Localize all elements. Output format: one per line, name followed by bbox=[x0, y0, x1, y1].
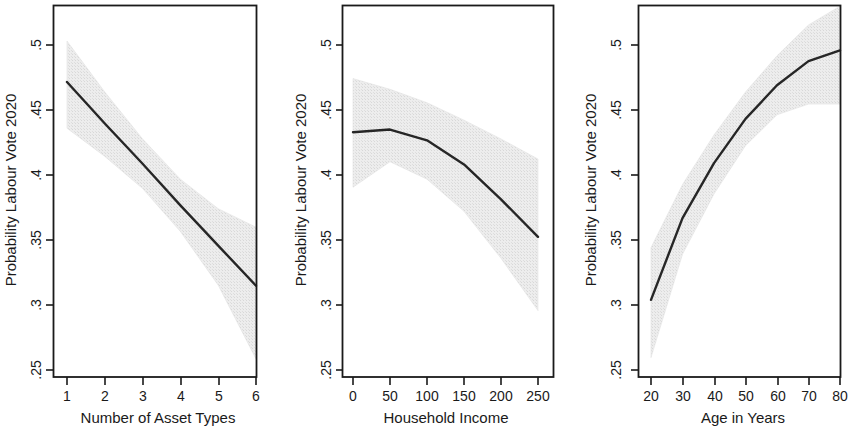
y-tick-label: .4 bbox=[28, 169, 44, 181]
x-tick-label: 200 bbox=[489, 388, 513, 404]
y-tick-label: .35 bbox=[28, 230, 44, 250]
y-axis-title: Probability Labour Vote 2020 bbox=[2, 94, 19, 287]
panel-asset-types-plot: Probability Labour Vote 2020 .5 .45 .4 .… bbox=[0, 0, 290, 432]
y-tick-label: .5 bbox=[318, 39, 334, 51]
x-axis-title: Number of Asset Types bbox=[81, 409, 236, 426]
x-tick-label: 30 bbox=[675, 388, 691, 404]
y-axis-title: Probability Labour Vote 2020 bbox=[292, 94, 309, 287]
x-tick-labels: 20 30 40 50 60 70 80 bbox=[643, 388, 848, 404]
y-tick-marks bbox=[46, 45, 53, 370]
y-tick-label: .35 bbox=[318, 230, 334, 250]
panel-household-income: Probability Labour Vote 2020 .5 .45 .4 .… bbox=[290, 0, 580, 432]
y-axis-title: Probability Labour Vote 2020 bbox=[582, 94, 599, 287]
x-tick-marks bbox=[651, 377, 840, 385]
y-tick-label: .45 bbox=[318, 100, 334, 120]
x-axis-title: Age in Years bbox=[701, 409, 785, 426]
y-tick-label: .3 bbox=[318, 299, 334, 311]
x-tick-label: 100 bbox=[415, 388, 439, 404]
confidence-band bbox=[353, 79, 538, 311]
panel-asset-types: Probability Labour Vote 2020 .5 .45 .4 .… bbox=[0, 0, 290, 432]
y-tick-label: .35 bbox=[608, 230, 624, 250]
y-tick-label: .4 bbox=[318, 169, 334, 181]
x-tick-label: 0 bbox=[349, 388, 357, 404]
x-tick-label: 20 bbox=[643, 388, 659, 404]
x-tick-labels: 0 50 100 150 200 250 bbox=[349, 388, 550, 404]
x-tick-label: 3 bbox=[139, 388, 147, 404]
y-tick-label: .45 bbox=[608, 100, 624, 120]
confidence-band bbox=[67, 41, 256, 359]
figure-panel-group: Probability Labour Vote 2020 .5 .45 .4 .… bbox=[0, 0, 849, 432]
y-tick-label: .25 bbox=[318, 360, 334, 380]
x-axis-title: Household Income bbox=[383, 409, 508, 426]
x-tick-marks bbox=[67, 377, 256, 385]
x-tick-label: 1 bbox=[63, 388, 71, 404]
x-tick-label: 6 bbox=[252, 388, 260, 404]
x-tick-label: 80 bbox=[832, 388, 848, 404]
y-tick-label: .25 bbox=[28, 360, 44, 380]
x-tick-label: 150 bbox=[452, 388, 476, 404]
y-tick-label: .25 bbox=[608, 360, 624, 380]
x-tick-label: 40 bbox=[707, 388, 723, 404]
prediction-line bbox=[67, 82, 256, 286]
panel-household-income-plot: Probability Labour Vote 2020 .5 .45 .4 .… bbox=[290, 0, 580, 432]
y-tick-label: .3 bbox=[28, 299, 44, 311]
x-tick-labels: 1 2 3 4 5 6 bbox=[63, 388, 260, 404]
x-tick-label: 70 bbox=[801, 388, 817, 404]
x-tick-label: 50 bbox=[738, 388, 754, 404]
y-tick-label: .45 bbox=[28, 100, 44, 120]
y-tick-marks bbox=[631, 45, 638, 370]
y-tick-labels: .5 .45 .4 .35 .3 .25 bbox=[608, 39, 624, 380]
y-tick-label: .4 bbox=[608, 169, 624, 181]
y-tick-label: .3 bbox=[608, 299, 624, 311]
x-tick-label: 5 bbox=[215, 388, 223, 404]
y-tick-labels: .5 .45 .4 .35 .3 .25 bbox=[28, 39, 44, 380]
x-tick-label: 60 bbox=[770, 388, 786, 404]
x-tick-marks bbox=[353, 377, 538, 385]
x-tick-label: 250 bbox=[526, 388, 550, 404]
y-tick-labels: .5 .45 .4 .35 .3 .25 bbox=[318, 39, 334, 380]
y-tick-label: .5 bbox=[608, 39, 624, 51]
x-tick-label: 50 bbox=[382, 388, 398, 404]
panel-age: Probability Labour Vote 2020 .5 .45 .4 .… bbox=[580, 0, 849, 432]
x-tick-label: 2 bbox=[101, 388, 109, 404]
panel-age-plot: Probability Labour Vote 2020 .5 .45 .4 .… bbox=[580, 0, 849, 432]
x-tick-label: 4 bbox=[177, 388, 185, 404]
y-tick-label: .5 bbox=[28, 39, 44, 51]
